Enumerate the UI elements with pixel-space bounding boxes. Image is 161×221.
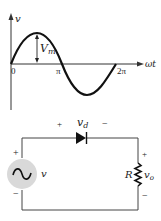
tick-label-2pi: 2π bbox=[117, 66, 127, 76]
wire-bottom bbox=[22, 186, 138, 210]
halfwave-diagram: v ωt Vm 0 π 2π + vd − + − v R + vo − bbox=[0, 0, 161, 221]
source-minus: − bbox=[13, 188, 19, 199]
output-minus: − bbox=[142, 190, 148, 201]
x-axis-label: ωt bbox=[145, 59, 156, 69]
tick-label-0: 0 bbox=[11, 66, 16, 76]
diode-icon bbox=[76, 132, 87, 144]
diode-minus: − bbox=[102, 118, 108, 129]
diode-voltage-label: vd bbox=[77, 116, 88, 130]
wire-top-right bbox=[87, 138, 138, 163]
tick-label-pi: π bbox=[56, 66, 61, 76]
source-plus: + bbox=[13, 147, 19, 158]
circuit: + vd − + − v R + vo − bbox=[7, 116, 154, 210]
x-axis-arrow-icon bbox=[137, 62, 144, 67]
waveform-plot: v ωt Vm 0 π 2π bbox=[9, 13, 157, 110]
output-plus: + bbox=[142, 149, 147, 159]
diode-plus: + bbox=[57, 119, 62, 129]
wire-top-left bbox=[22, 138, 76, 158]
resistor-label: R bbox=[124, 169, 133, 180]
output-voltage-label: vo bbox=[144, 169, 154, 182]
amplitude-label: Vm bbox=[40, 42, 56, 56]
y-axis-arrow-icon bbox=[9, 13, 14, 20]
resistor-icon bbox=[135, 163, 141, 186]
y-axis-label: v bbox=[15, 13, 21, 24]
vm-arrow-up-icon bbox=[35, 34, 39, 39]
vm-arrow-down-icon bbox=[35, 58, 39, 63]
source-label: v bbox=[41, 168, 47, 179]
